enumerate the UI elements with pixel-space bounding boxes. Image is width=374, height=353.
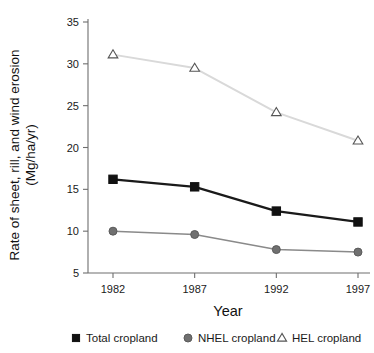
data-point-marker — [109, 227, 117, 235]
y-axis-title-line2: (Mg/ha/yr) — [23, 124, 38, 186]
series-line — [113, 55, 358, 141]
legend-item-label: NHEL cropland — [198, 332, 276, 344]
chart-legend: Total croplandNHEL croplandHEL cropland — [72, 332, 361, 344]
x-tick-label: 1997 — [346, 283, 370, 295]
y-axis-title-line1: Rate of sheet, rill, and wind erosion — [7, 50, 22, 261]
x-axis-title: Year — [213, 303, 242, 319]
chart-page: Rate of sheet, rill, and wind erosion (M… — [0, 0, 374, 353]
data-point-marker — [191, 231, 199, 239]
data-point-marker — [272, 246, 280, 254]
series-line — [113, 231, 358, 252]
series-line — [113, 179, 358, 222]
legend-item-total-cropland[interactable]: Total cropland — [72, 332, 157, 344]
legend-item-nhel-cropland[interactable]: NHEL cropland — [184, 332, 276, 344]
x-tick-label: 1982 — [101, 283, 125, 295]
series-hel-cropland — [108, 50, 363, 144]
series-total-cropland — [109, 175, 362, 226]
data-point-marker — [190, 183, 198, 191]
data-point-marker — [109, 175, 117, 183]
data-point-marker — [108, 50, 118, 58]
y-tick-label: 25 — [67, 100, 79, 112]
y-axis-title: Rate of sheet, rill, and wind erosion (M… — [7, 50, 38, 261]
y-tick-label: 10 — [67, 225, 79, 237]
x-axis-ticks: 1982198719921997 — [101, 273, 370, 295]
data-point-marker — [272, 207, 280, 215]
y-tick-label: 5 — [73, 267, 79, 279]
data-point-marker — [354, 248, 362, 256]
x-tick-label: 1987 — [182, 283, 206, 295]
y-tick-label: 15 — [67, 183, 79, 195]
y-axis-ticks: 5101520253035 — [67, 16, 88, 279]
y-tick-label: 30 — [67, 58, 79, 70]
y-tick-label: 35 — [67, 16, 79, 28]
legend-item-hel-cropland[interactable]: HEL cropland — [277, 332, 361, 344]
data-point-marker — [354, 218, 362, 226]
legend-item-label: Total cropland — [86, 332, 158, 344]
series-nhel-cropland — [109, 227, 362, 256]
x-tick-label: 1992 — [264, 283, 288, 295]
y-tick-label: 20 — [67, 142, 79, 154]
line-chart: Rate of sheet, rill, and wind erosion (M… — [0, 0, 374, 353]
data-point-marker — [184, 334, 192, 342]
data-point-marker — [72, 334, 79, 341]
data-point-marker — [277, 333, 286, 341]
legend-item-label: HEL cropland — [292, 332, 361, 344]
series-layer — [108, 50, 363, 256]
